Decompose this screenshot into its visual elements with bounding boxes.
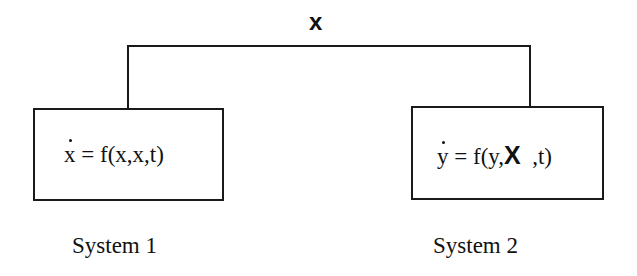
system-2-rhs-suffix: ,t) [521,144,552,169]
coupled-systems-diagram: x x = f(x,x,t) y = f(y,X ,t) System 1 Sy… [0,0,637,276]
system-1-equation: x = f(x,x,t) [64,141,164,169]
time-derivative-dot-icon [442,141,445,144]
x-dot-variable: x [64,141,76,169]
signal-label: x [309,8,322,36]
system-1-box: x = f(x,x,t) [33,108,224,201]
system-1-label: System 1 [72,232,157,260]
coupling-input-variable: X [504,141,521,169]
time-derivative-dot-icon [69,139,72,142]
y-dot-variable: y [437,143,449,171]
system-1-rhs: = f(x,x,t) [76,142,164,167]
system-2-equation: y = f(y,X ,t) [437,141,552,171]
system-2-rhs-prefix: = f(y, [449,144,505,169]
system-2-box: y = f(y,X ,t) [411,106,604,200]
system-2-label: System 2 [433,232,518,260]
